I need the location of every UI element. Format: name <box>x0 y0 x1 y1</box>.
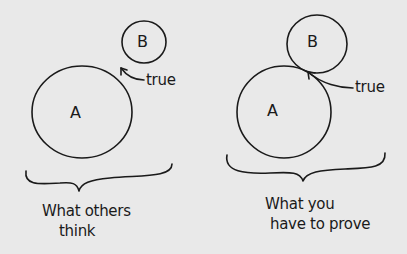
left-circle-b-label: B <box>137 33 148 50</box>
left-circle-a <box>32 66 132 158</box>
right-true-arrow <box>308 72 353 88</box>
left-true-label: true <box>146 72 176 89</box>
left-caption-line-2: think <box>59 223 95 240</box>
left-circle-a-label: A <box>70 104 81 121</box>
right-circle-a <box>237 66 331 158</box>
left-brace <box>26 164 172 191</box>
right-caption-line-1: What you <box>265 196 334 213</box>
left-panel <box>26 21 172 191</box>
right-caption-line-2: have to prove <box>270 216 370 233</box>
left-caption-line-1: What others <box>42 203 131 220</box>
right-true-label: true <box>355 79 385 96</box>
diagram-canvas: A B true What others think A B true What… <box>0 0 407 254</box>
right-panel <box>227 15 385 181</box>
right-circle-b-label: B <box>307 33 318 50</box>
right-circle-a-label: A <box>267 102 278 119</box>
right-brace <box>227 153 385 181</box>
